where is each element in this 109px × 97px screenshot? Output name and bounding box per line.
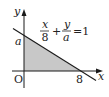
eq-term1-denominator: 8 <box>42 31 49 44</box>
y-axis-arrow-icon <box>22 9 27 16</box>
eq-rhs: =1 <box>73 25 89 38</box>
graph: y x O a 8 x 8 + y a =1 <box>0 0 109 97</box>
x-intercept-label: 8 <box>76 73 83 86</box>
y-intercept-label: a <box>15 35 22 48</box>
y-axis-label: y <box>13 5 21 18</box>
equation: x 8 + y a =1 <box>40 18 89 44</box>
eq-plus: + <box>52 25 61 38</box>
eq-term2-denominator: a <box>63 31 70 44</box>
eq-term2-numerator: y <box>63 18 71 31</box>
eq-term1-numerator: x <box>42 18 49 31</box>
origin-label: O <box>14 73 23 86</box>
x-axis-label: x <box>98 70 105 83</box>
